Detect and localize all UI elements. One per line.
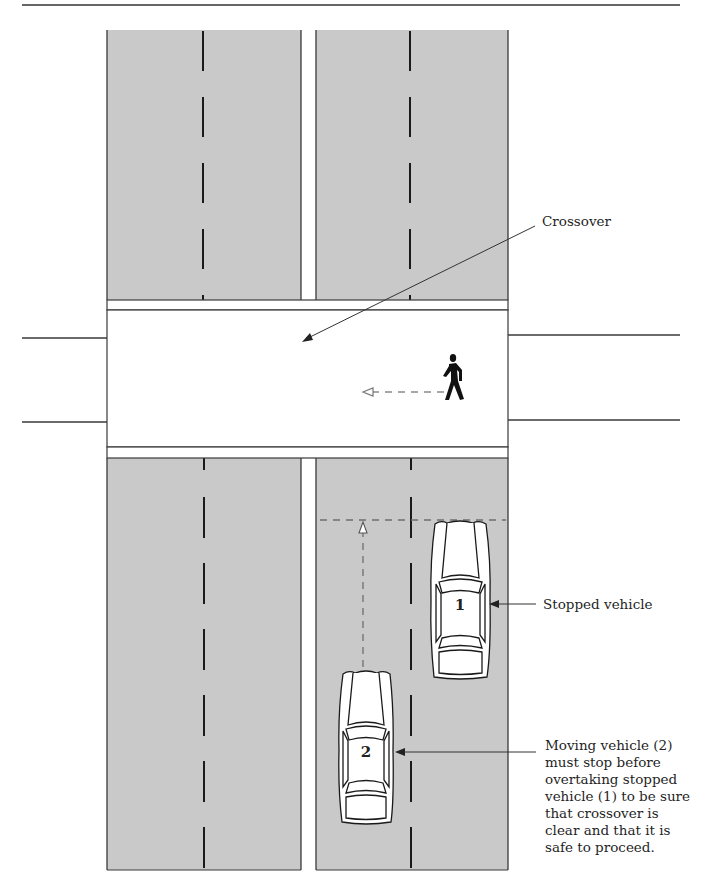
caption-line: overtaking stopped xyxy=(545,771,690,788)
crossover-area xyxy=(107,310,508,447)
road-upper xyxy=(107,30,508,300)
stopped-vehicle-pointer-arrow xyxy=(489,600,536,608)
vehicle-1-number: 1 xyxy=(455,596,465,614)
moving-vehicle-caption: Moving vehicle (2) must stop before over… xyxy=(545,737,690,856)
caption-line: that crossover is xyxy=(545,805,690,822)
vehicle-2-number: 2 xyxy=(361,743,371,761)
vehicle-2-moving: 2 xyxy=(339,671,393,824)
caption-line: Moving vehicle (2) xyxy=(545,737,690,754)
caption-line: clear and that it is xyxy=(545,822,690,839)
caption-line: vehicle (1) to be sure xyxy=(545,788,690,805)
road-upper-right xyxy=(316,30,508,300)
caption-line: must stop before xyxy=(545,754,690,771)
crossover-strip-top xyxy=(107,300,508,310)
crossover-strip-bottom xyxy=(107,447,508,458)
crossover-label: Crossover xyxy=(542,213,611,229)
caption-line: safe to proceed. xyxy=(545,839,690,856)
vehicle-1-stopped: 1 xyxy=(431,521,490,679)
stopped-vehicle-label: Stopped vehicle xyxy=(543,596,653,612)
crossover xyxy=(22,300,680,458)
